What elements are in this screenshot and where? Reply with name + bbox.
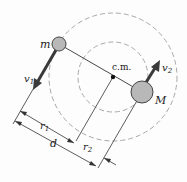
extension-line-cm xyxy=(76,77,113,141)
label-d: d xyxy=(50,137,57,150)
large-mass-M xyxy=(131,81,153,103)
orbit-diagram: m M c.m. v1 v2 r1 d r2 xyxy=(0,0,187,182)
d-arrow-end xyxy=(89,161,96,166)
v1-arrow-shaft xyxy=(38,50,56,81)
d-arrow-start xyxy=(15,121,22,126)
diagram-canvas: m M c.m. v1 v2 r1 d r2 xyxy=(0,0,187,182)
label-v2: v2 xyxy=(162,62,173,75)
extension-line-M xyxy=(98,92,142,168)
label-v1: v1 xyxy=(24,73,34,86)
r2-arrow-head xyxy=(104,158,111,163)
center-of-mass-dot xyxy=(111,75,115,79)
label-r1: r1 xyxy=(40,120,49,133)
r1-arrow-end xyxy=(67,138,74,143)
label-M: M xyxy=(154,94,167,107)
label-r2: r2 xyxy=(83,141,93,154)
label-m: m xyxy=(40,38,50,51)
r1-arrow-start xyxy=(20,111,27,116)
label-cm: c.m. xyxy=(112,62,131,72)
small-mass-m xyxy=(52,37,66,51)
